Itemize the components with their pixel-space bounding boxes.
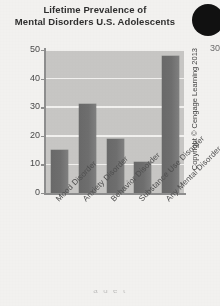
y-axis-tick (41, 79, 45, 80)
gridline (46, 49, 184, 51)
bleed-text: a d e t (0, 290, 220, 295)
y-axis-tick-label: 30 (0, 101, 40, 111)
copyright-notice: Copyright © Cengage Learning 2013 (186, 48, 202, 198)
black-circle-icon (192, 4, 220, 36)
y-axis-tick-label: 50 (0, 44, 40, 54)
y-axis-tick (41, 50, 45, 51)
y-axis-tick (41, 164, 45, 165)
y-axis-line (44, 48, 46, 195)
y-axis-tick (41, 107, 45, 108)
y-axis-tick (41, 136, 45, 137)
figure-container: Lifetime Prevalence of Mental Disorders … (0, 0, 220, 306)
page-bleed-text: a d e t (0, 290, 220, 304)
copyright-text: Copyright © Cengage Learning 2013 (190, 48, 199, 170)
y-axis-tick-label: 40 (0, 73, 40, 83)
x-axis-tick-labels: Mood DisorderAnxiety DisorderBehavior Di… (0, 193, 220, 283)
y-axis-tick-label: 20 (0, 130, 40, 140)
y-axis-tick-label: 10 (0, 158, 40, 168)
